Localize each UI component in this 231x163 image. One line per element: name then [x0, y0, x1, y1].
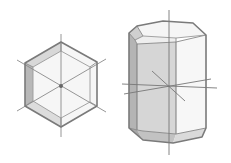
- c-axis-point: [59, 84, 63, 88]
- prism-face-left: [129, 33, 137, 130]
- hexagon-top-view: [17, 34, 106, 137]
- crystal-diagram: [0, 0, 231, 163]
- hexagonal-prism: [122, 10, 217, 155]
- bevel-face-left: [25, 63, 33, 106]
